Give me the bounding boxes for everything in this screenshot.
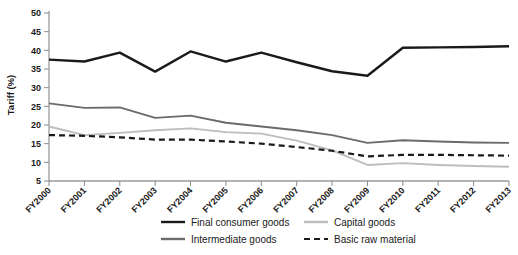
- x-tick-label: FY2000: [24, 185, 53, 214]
- series-line-final-consumer-goods: [49, 46, 509, 75]
- x-tick-label: FY2009: [342, 185, 371, 214]
- y-tick-label: 40: [31, 46, 41, 56]
- legend-item[interactable]: Capital goods: [304, 217, 395, 228]
- legend-label: Intermediate goods: [191, 234, 277, 245]
- y-tick-label: 45: [31, 27, 41, 37]
- x-tick-label: FY2004: [165, 185, 194, 214]
- legend-item[interactable]: Intermediate goods: [161, 234, 277, 245]
- x-axis-ticks: FY2000FY2001FY2002FY2003FY2004FY2005FY20…: [24, 181, 513, 215]
- x-tick-label: FY2002: [94, 185, 123, 214]
- y-tick-label: 10: [31, 158, 41, 168]
- chart-figure: Tariff (%) 5101520253035404550 FY2000FY2…: [0, 0, 518, 255]
- y-axis-title-text: Tariff (%): [5, 75, 16, 115]
- y-tick-label: 50: [31, 8, 41, 18]
- chart-legend: Final consumer goodsCapital goodsInterme…: [161, 217, 416, 245]
- legend-item[interactable]: Basic raw material: [304, 234, 416, 245]
- y-axis-title: Tariff (%): [5, 75, 16, 115]
- x-tick-label: FY2003: [130, 185, 159, 214]
- tariff-line-chart: Tariff (%) 5101520253035404550 FY2000FY2…: [0, 0, 518, 255]
- x-tick-label: FY2007: [271, 185, 300, 214]
- y-tick-label: 35: [31, 64, 41, 74]
- y-tick-label: 20: [31, 120, 41, 130]
- data-series-group: [49, 46, 509, 167]
- x-tick-label: FY2012: [448, 185, 477, 214]
- x-tick-label: FY2005: [200, 185, 229, 214]
- y-tick-label: 5: [36, 176, 41, 186]
- legend-label: Final consumer goods: [191, 217, 289, 228]
- x-tick-label: FY2011: [413, 185, 442, 214]
- x-tick-label: FY2013: [484, 185, 513, 214]
- y-tick-label: 25: [31, 102, 41, 112]
- series-line-capital-goods: [49, 126, 509, 166]
- legend-label: Capital goods: [334, 217, 395, 228]
- x-tick-label: FY2008: [307, 185, 336, 214]
- y-tick-label: 15: [31, 139, 41, 149]
- x-tick-label: FY2006: [236, 185, 265, 214]
- y-tick-label: 30: [31, 83, 41, 93]
- legend-label: Basic raw material: [334, 234, 416, 245]
- legend-item[interactable]: Final consumer goods: [161, 217, 289, 228]
- x-tick-label: FY2010: [377, 185, 406, 214]
- x-tick-label: FY2001: [59, 185, 88, 214]
- y-axis-ticks: 5101520253035404550: [31, 8, 49, 186]
- series-line-basic-raw-material: [49, 135, 509, 156]
